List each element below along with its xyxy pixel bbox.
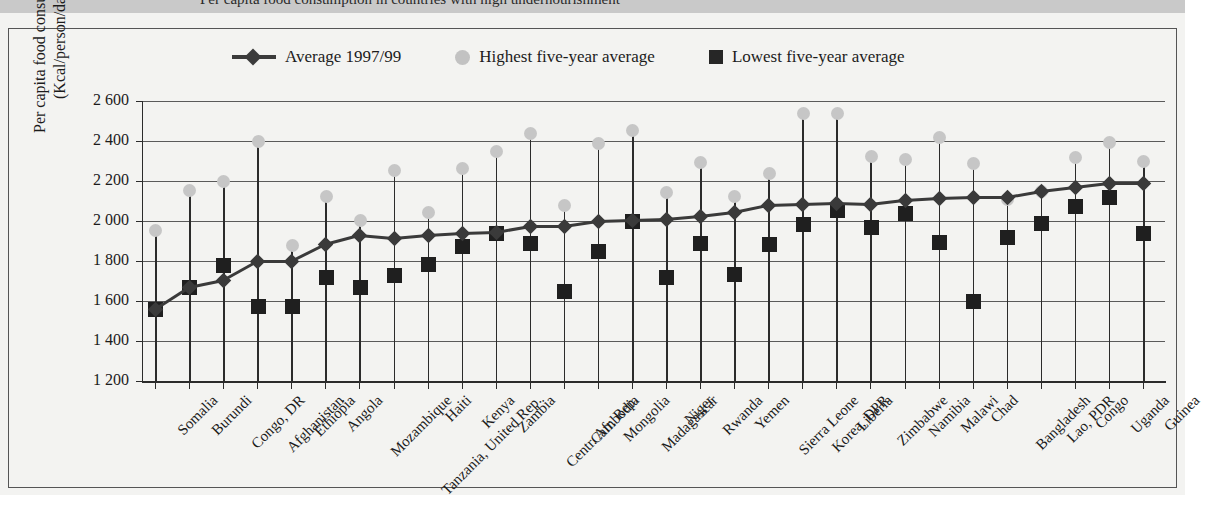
highest-marker (286, 239, 299, 252)
legend-label-average: Average 1997/99 (285, 47, 401, 67)
x-tick-mark (973, 382, 974, 389)
figure-border-bottom (8, 487, 1176, 488)
y-axis-title-line2: (Kcal/person/day) (50, 0, 70, 133)
legend-item-average: Average 1997/99 (232, 47, 401, 67)
line-diamond-marker-icon (232, 48, 276, 66)
data-stem (496, 151, 498, 381)
highest-marker (320, 190, 333, 203)
average-marker (352, 227, 368, 243)
highest-marker (899, 153, 912, 166)
figure-border-top (8, 28, 1176, 29)
x-tick-mark (734, 382, 735, 389)
lowest-marker (523, 236, 538, 251)
x-tick-mark (768, 382, 769, 389)
x-tick-mark (530, 382, 531, 389)
highest-marker (763, 167, 776, 180)
highest-marker (1069, 151, 1082, 164)
lowest-marker (932, 235, 947, 250)
data-stem (1007, 197, 1009, 381)
average-marker (931, 190, 947, 206)
x-tick-mark (836, 382, 837, 389)
x-tick-mark (564, 382, 565, 389)
lowest-marker (251, 299, 266, 314)
gridline (143, 341, 1165, 342)
data-stem (359, 220, 361, 381)
highest-marker (149, 224, 162, 237)
average-marker (420, 227, 436, 243)
y-tick-mark (136, 101, 143, 102)
lowest-marker (591, 244, 606, 259)
y-tick-label: 1 200 (93, 371, 129, 389)
x-tick-label: Uganda (1128, 392, 1173, 437)
lowest-marker (1034, 216, 1049, 231)
y-axis-title-line1: Per capita food consumption (30, 0, 50, 133)
highest-marker (967, 157, 980, 170)
chart-legend: Average 1997/99 Highest five-year averag… (232, 46, 959, 68)
y-axis-line (142, 101, 143, 382)
highest-marker (354, 214, 367, 227)
lowest-marker (693, 236, 708, 251)
data-stem (939, 137, 941, 381)
average-marker (795, 196, 811, 212)
y-tick-label: 2 400 (93, 131, 129, 149)
y-tick-mark (136, 181, 143, 182)
highest-marker (1137, 155, 1150, 168)
lowest-marker (727, 267, 742, 282)
y-tick-mark (136, 261, 143, 262)
x-tick-mark (257, 382, 258, 389)
average-marker (659, 211, 675, 227)
average-marker (727, 204, 743, 220)
x-tick-mark (632, 382, 633, 389)
average-marker (1033, 183, 1049, 199)
data-stem (462, 168, 464, 381)
highest-marker (558, 199, 571, 212)
y-tick-label: 1 400 (93, 331, 129, 349)
data-stem (598, 143, 600, 381)
data-stem (632, 130, 634, 381)
data-stem (734, 196, 736, 381)
highest-marker (865, 150, 878, 163)
highest-marker (933, 131, 946, 144)
highest-marker (694, 156, 707, 169)
y-tick-mark (136, 221, 143, 222)
y-tick-label: 1 800 (93, 251, 129, 269)
figure-page: Per capita food consumption in countries… (0, 0, 1210, 527)
plot-area: 2 6002 4002 2002 0001 8001 6001 4001 200… (143, 101, 1165, 381)
y-axis-title: Per capita food consumption (Kcal/person… (30, 0, 70, 133)
x-tick-mark (1007, 382, 1008, 389)
highest-marker (252, 135, 265, 148)
lowest-marker (387, 268, 402, 283)
highest-marker (490, 145, 503, 158)
x-tick-mark (802, 382, 803, 389)
x-tick-mark (223, 382, 224, 389)
lowest-marker (353, 280, 368, 295)
y-tick-mark (136, 381, 143, 382)
data-stem (530, 133, 532, 381)
lowest-marker (1102, 190, 1117, 205)
average-marker (863, 196, 879, 212)
x-tick-mark (598, 382, 599, 389)
average-marker (318, 236, 334, 252)
x-tick-mark (394, 382, 395, 389)
gridline (143, 181, 1165, 182)
x-tick-mark (155, 382, 156, 389)
x-tick-label: Mozambique (388, 392, 456, 460)
highest-marker (524, 127, 537, 140)
square-marker-icon (709, 50, 723, 64)
legend-item-lowest: Lowest five-year average (709, 47, 905, 67)
figure-border-left (8, 28, 9, 488)
legend-label-lowest: Lowest five-year average (732, 47, 905, 67)
x-tick-mark (939, 382, 940, 389)
x-tick-mark (700, 382, 701, 389)
average-marker (965, 189, 981, 205)
x-tick-mark (496, 382, 497, 389)
lowest-marker (285, 299, 300, 314)
x-tick-mark (1109, 382, 1110, 389)
legend-label-highest: Highest five-year average (479, 47, 655, 67)
circle-marker-icon (455, 50, 470, 65)
data-stem (325, 196, 327, 381)
lowest-marker (1136, 226, 1151, 241)
average-marker (591, 213, 607, 229)
x-tick-mark (189, 382, 190, 389)
highest-marker (1103, 136, 1116, 149)
